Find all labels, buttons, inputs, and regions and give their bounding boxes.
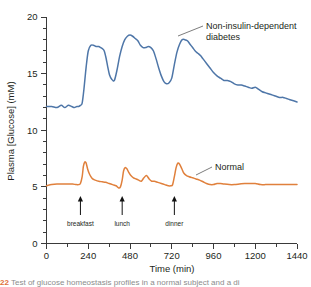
meal-breakfast-label: breakfast xyxy=(67,220,94,227)
meal-dinner-label: dinner xyxy=(165,220,184,227)
series-line-diabetes xyxy=(47,35,298,107)
meal-lunch-label: lunch xyxy=(114,220,130,227)
y-axis-tick-labels: 05101520 xyxy=(27,11,38,249)
meal-lunch: lunch xyxy=(114,196,130,227)
y-tick-label-5: 5 xyxy=(32,181,37,192)
y-tick-label-10: 10 xyxy=(27,125,38,136)
meal-breakfast: breakfast xyxy=(67,196,94,227)
diabetes-annotation-line2: diabetes xyxy=(206,32,241,42)
y-axis-ticks xyxy=(41,17,47,244)
caption-text: Test of glucose homeostasis profiles in … xyxy=(11,279,240,287)
diabetes-leader-line xyxy=(178,26,203,36)
x-tick-label-480: 480 xyxy=(122,250,138,261)
y-tick-label-15: 15 xyxy=(27,68,38,79)
y-tick-label-20: 20 xyxy=(27,11,38,22)
glucose-chart-figure: Plasma [Glucose] (mM) 05101520 024048072… xyxy=(0,0,311,287)
meal-markers: breakfastlunchdinner xyxy=(67,196,184,227)
x-axis-title: Time (min) xyxy=(149,263,194,274)
normal-annotation: Normal xyxy=(215,162,244,172)
series-line-normal xyxy=(47,162,298,188)
y-tick-label-0: 0 xyxy=(32,238,37,249)
y-axis-title: Plasma [Glucose] (mM) xyxy=(5,81,16,180)
x-tick-label-240: 240 xyxy=(80,250,96,261)
chart-plot-area: Plasma [Glucose] (mM) 05101520 024048072… xyxy=(0,0,311,287)
x-tick-label-1440: 1440 xyxy=(286,250,307,261)
normal-leader-line xyxy=(196,167,212,175)
figure-caption: 22 Test of glucose homeostasis profiles … xyxy=(0,279,311,287)
x-tick-label-720: 720 xyxy=(164,250,180,261)
x-axis-tick-labels: 024048072096012001440 xyxy=(44,250,308,261)
x-axis-ticks xyxy=(47,244,298,250)
meal-dinner: dinner xyxy=(165,196,184,227)
x-tick-label-1200: 1200 xyxy=(245,250,266,261)
x-tick-label-0: 0 xyxy=(44,250,49,261)
caption-number: 22 xyxy=(0,279,9,287)
diabetes-annotation-line1: Non-insulin-dependent xyxy=(206,21,297,31)
x-tick-label-960: 960 xyxy=(206,250,222,261)
